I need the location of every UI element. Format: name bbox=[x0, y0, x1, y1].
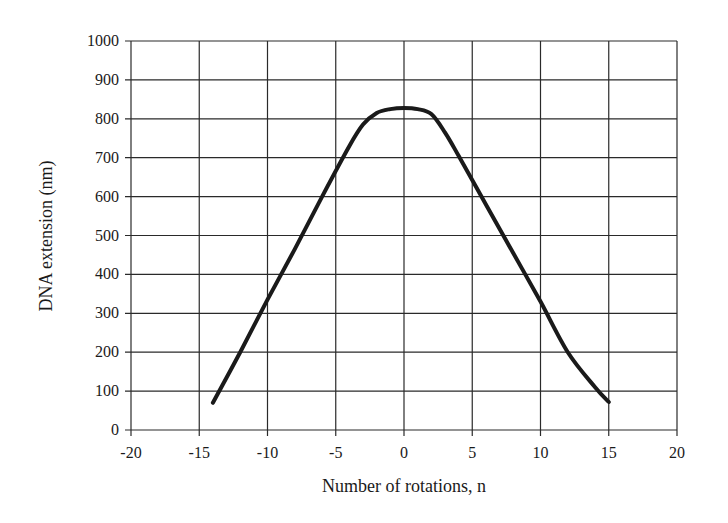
x-tick-label: 5 bbox=[468, 444, 476, 461]
y-tick-label: 100 bbox=[95, 382, 119, 399]
y-tick-label: 700 bbox=[95, 149, 119, 166]
y-tick-label: 800 bbox=[95, 110, 119, 127]
x-tick-label: 15 bbox=[601, 444, 617, 461]
y-tick-label: 0 bbox=[111, 421, 119, 438]
x-tick-label: -20 bbox=[120, 444, 141, 461]
grid-lines bbox=[125, 41, 677, 436]
x-tick-label: -10 bbox=[257, 444, 278, 461]
y-tick-label: 900 bbox=[95, 71, 119, 88]
data-series-line bbox=[213, 108, 609, 403]
y-tick-label: 500 bbox=[95, 227, 119, 244]
x-tick-label: 10 bbox=[533, 444, 549, 461]
x-axis-ticks: -20-15-10-505101520 bbox=[120, 444, 685, 461]
x-tick-label: -5 bbox=[329, 444, 342, 461]
y-tick-label: 200 bbox=[95, 343, 119, 360]
y-axis-title: DNA extension (nm) bbox=[36, 161, 57, 312]
y-tick-label: 600 bbox=[95, 188, 119, 205]
line-chart: 01002003004005006007008009001000 -20-15-… bbox=[0, 0, 728, 523]
y-axis-ticks: 01002003004005006007008009001000 bbox=[87, 32, 119, 438]
x-tick-label: -15 bbox=[189, 444, 210, 461]
y-tick-label: 300 bbox=[95, 304, 119, 321]
y-tick-label: 400 bbox=[95, 265, 119, 282]
x-tick-label: 0 bbox=[400, 444, 408, 461]
y-tick-label: 1000 bbox=[87, 32, 119, 49]
x-axis-title: Number of rotations, n bbox=[322, 476, 486, 496]
x-tick-label: 20 bbox=[669, 444, 685, 461]
